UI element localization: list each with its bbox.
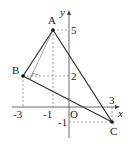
y-axis-label: y: [59, 6, 65, 18]
altitude-line: [30, 30, 53, 79]
origin-label: O: [70, 108, 78, 120]
point-b: [21, 74, 25, 78]
point-c: [110, 120, 114, 124]
x-tick-neg3: -3: [13, 108, 23, 120]
y-tick-5: 5: [71, 24, 77, 36]
x-tick-neg1: -1: [43, 108, 52, 120]
label-a: A: [48, 14, 56, 26]
label-b: B: [12, 64, 19, 76]
guide-lines: [23, 30, 112, 122]
x-axis-label: x: [117, 107, 123, 119]
y-axis-arrow-icon: [67, 10, 71, 15]
y-tick-neg1: -1: [58, 116, 67, 128]
point-a: [51, 28, 55, 32]
coordinate-diagram: A B C x y O -3 -1 3 5 2 -1: [0, 0, 132, 150]
x-tick-3: 3: [109, 94, 115, 106]
label-c: C: [110, 125, 117, 137]
y-tick-2: 2: [71, 70, 77, 82]
